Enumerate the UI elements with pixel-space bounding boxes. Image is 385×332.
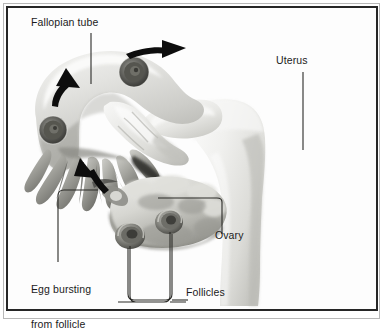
- label-egg-bursting: Egg bursting from follicle: [31, 261, 91, 332]
- ovary: [92, 175, 227, 250]
- label-egg-bursting-line2: from follicle: [31, 319, 91, 331]
- arrow-tube-transport-right: [126, 40, 186, 59]
- label-uterus: Uterus: [276, 55, 308, 67]
- label-egg-bursting-line1: Egg bursting: [31, 284, 91, 296]
- label-follicles: Follicles: [186, 287, 225, 299]
- label-fallopian-tube: Fallopian tube: [31, 17, 98, 29]
- follicle-spiral-right: [155, 210, 183, 234]
- tube-cross-section-upper: [119, 57, 149, 87]
- tube-cross-section-lower: [39, 116, 67, 144]
- label-ovary: Ovary: [215, 230, 244, 242]
- follicle-spiral-left: [115, 223, 145, 249]
